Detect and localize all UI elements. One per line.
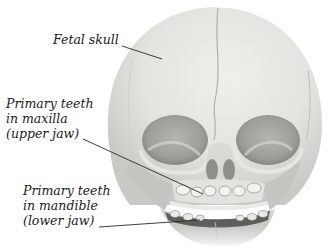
right-orbit (236, 115, 300, 165)
label-line: in maxilla (6, 111, 94, 126)
left-orbit (142, 115, 208, 165)
label-line: in mandible (23, 198, 111, 213)
label-fetal-skull: Fetal skull (53, 32, 119, 47)
label-line: (lower jaw) (23, 213, 111, 228)
figure-canvas: Fetal skull Primary teeth in maxilla (up… (0, 0, 327, 249)
label-line: Primary teeth (6, 96, 94, 111)
label-line: (upper jaw) (6, 126, 94, 141)
label-line: Fetal skull (53, 32, 119, 47)
label-line: Primary teeth (23, 183, 111, 198)
label-primary-teeth-maxilla: Primary teeth in maxilla (upper jaw) (6, 96, 94, 141)
label-primary-teeth-mandible: Primary teeth in mandible (lower jaw) (23, 183, 111, 228)
